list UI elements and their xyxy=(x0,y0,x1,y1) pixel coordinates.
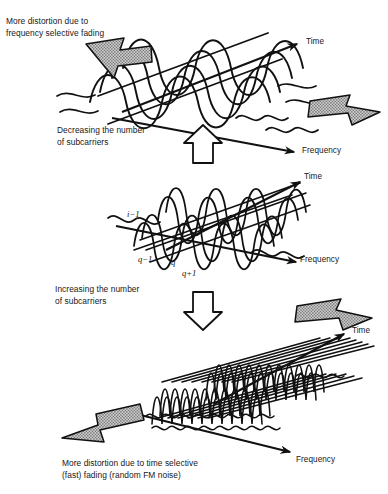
caption-bottom-distortion: More distortion due to time selective (f… xyxy=(62,457,198,481)
subcarrier-index-q-plus-1: q+1 xyxy=(182,268,196,278)
axis-label-time-bottom: Time xyxy=(352,326,370,335)
axis-label-frequency-bottom: Frequency xyxy=(296,455,335,464)
caption-increasing-subcarriers: Increasing the number of subcarriers xyxy=(55,283,139,307)
axis-label-frequency-top: Frequency xyxy=(302,146,341,155)
increase-arrow xyxy=(184,292,222,330)
axis-label-time-middle: Time xyxy=(304,172,322,181)
axis-label-frequency-middle: Frequency xyxy=(300,255,339,264)
caption-decreasing-subcarriers: Decreasing the number of subcarriers xyxy=(57,124,145,148)
distortion-arrow-bottom-left xyxy=(62,404,144,442)
subcarrier-index-q-minus-1: q−1 xyxy=(138,254,152,264)
distortion-arrow-top-right xyxy=(308,95,380,125)
time-axis-bottom xyxy=(214,334,344,404)
subcarrier-index-i-minus-1: i−1 xyxy=(127,209,139,219)
figure-root: More distortion due to frequency selecti… xyxy=(0,0,388,494)
subcarrier-index-q: q xyxy=(171,257,175,267)
panel-bottom-narrow-subcarriers xyxy=(128,334,374,452)
decrease-arrow xyxy=(184,125,222,163)
distortion-arrow-top-left xyxy=(86,38,152,78)
axis-label-time-top: Time xyxy=(306,37,324,46)
caption-top-distortion: More distortion due to frequency selecti… xyxy=(6,15,104,39)
ofdm-subcarrier-diagram xyxy=(0,0,388,494)
